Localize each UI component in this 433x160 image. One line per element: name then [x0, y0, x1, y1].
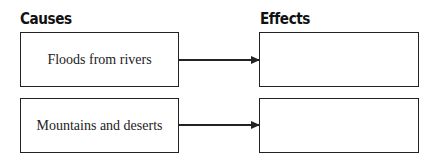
causes-heading: Causes — [20, 9, 72, 28]
arrow-2 — [179, 124, 259, 126]
cause-text-2: Mountains and deserts — [37, 118, 163, 134]
arrow-1 — [179, 59, 259, 61]
effect-box-2[interactable] — [259, 98, 419, 153]
effect-box-1[interactable] — [259, 32, 419, 87]
cause-box-2: Mountains and deserts — [20, 98, 179, 153]
cause-text-1: Floods from rivers — [47, 52, 151, 68]
cause-box-1: Floods from rivers — [20, 32, 179, 87]
effects-heading: Effects — [260, 9, 310, 28]
